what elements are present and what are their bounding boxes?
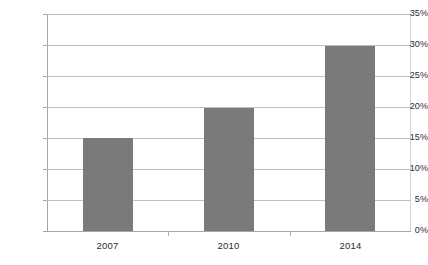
y-axis-tick-label: 35% (386, 9, 428, 18)
y-axis-tick-label: 5% (386, 195, 428, 204)
y-axis-tick-mark (43, 200, 47, 201)
x-axis-tick-mark (168, 232, 169, 236)
y-axis-tick-mark (43, 14, 47, 15)
x-axis-category-label-2007: 2007 (47, 240, 168, 251)
y-axis-tick-mark (43, 76, 47, 77)
y-axis-tick-label: 30% (386, 40, 428, 49)
bar-2007[interactable] (83, 138, 133, 231)
y-axis-tick-mark (43, 45, 47, 46)
y-axis-tick-mark (43, 231, 47, 232)
y-axis-tick-mark (43, 107, 47, 108)
y-axis-tick-label: 10% (386, 164, 428, 173)
y-axis-tick-mark (43, 169, 47, 170)
x-axis-category-label-2014: 2014 (290, 240, 411, 251)
gridline-35% (47, 14, 411, 15)
y-axis-tick-label: 0% (386, 226, 428, 235)
y-axis-tick-label: 15% (386, 133, 428, 142)
x-axis-category-label-2010: 2010 (168, 240, 289, 251)
bar-chart: 0%5%10%15%20%25%30%35% 200720102014 (0, 0, 428, 265)
y-axis-tick-label: 25% (386, 71, 428, 80)
bar-2010[interactable] (204, 108, 254, 231)
bar-2014[interactable] (325, 46, 375, 231)
y-axis-tick-mark (43, 138, 47, 139)
x-axis-tick-mark (290, 232, 291, 236)
gridline-0% (47, 231, 411, 232)
y-axis-tick-label: 20% (386, 102, 428, 111)
plot-area (47, 14, 411, 231)
